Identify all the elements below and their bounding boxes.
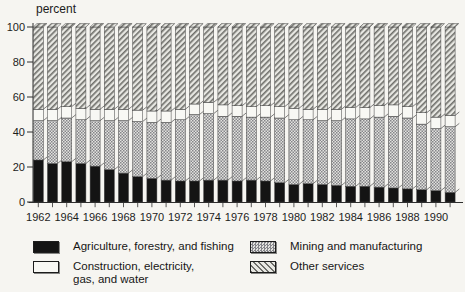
bar-segment-1975-checker: [218, 116, 228, 180]
segment-depth-line: [271, 102, 275, 105]
segment-depth-line: [313, 116, 317, 119]
segment-depth-line: [157, 108, 161, 111]
segment-depth-line: [370, 104, 374, 107]
segment-depth-line: [398, 185, 402, 188]
bar-segment-1982-diagonal: [317, 27, 327, 109]
bar-top-cap: [417, 24, 431, 27]
segment-depth-line: [413, 185, 417, 188]
bar-top-cap: [48, 24, 62, 27]
segment-depth-line: [313, 106, 317, 109]
x-tick-label: 1968: [111, 211, 135, 223]
segment-depth-line: [43, 106, 47, 109]
segment-depth-line: [228, 113, 232, 116]
bar-segment-1977-white: [246, 107, 256, 118]
bar-segment-1964-solid-black: [62, 162, 72, 202]
bar-top-cap: [360, 24, 374, 27]
bar-segment-1981-diagonal: [303, 27, 313, 109]
segment-depth-line: [214, 110, 218, 113]
bar-segment-1970-checker: [147, 122, 157, 178]
y-tick-label: 80: [13, 56, 25, 68]
bar-segment-1985-solid-black: [360, 186, 370, 202]
bar-segment-1983-diagonal: [332, 27, 342, 109]
bar-segment-1987-diagonal: [388, 27, 398, 105]
bar-top-cap: [246, 24, 260, 27]
bar-segment-1962-checker: [33, 121, 43, 160]
legend-label-construction-line2: gas, and water: [73, 273, 194, 286]
bar-segment-1984-solid-black: [346, 186, 356, 202]
bar-segment-1979-white: [275, 107, 285, 118]
segment-depth-line: [398, 113, 402, 116]
segment-depth-line: [129, 106, 133, 109]
segment-depth-line: [228, 177, 232, 180]
bar-segment-1966-checker: [90, 121, 100, 167]
segment-depth-line: [157, 175, 161, 178]
segment-depth-line: [242, 102, 246, 105]
bar-top-cap: [317, 24, 331, 27]
segment-depth-line: [100, 117, 104, 120]
bar-top-cap: [289, 24, 303, 27]
bar-top-cap: [232, 24, 246, 27]
bar-segment-1979-checker: [275, 118, 285, 183]
bar-segment-1976-solid-black: [232, 181, 242, 202]
bar-segment-1962-solid-black: [33, 160, 43, 202]
bar-segment-1973-white: [190, 104, 200, 115]
segment-depth-line: [129, 170, 133, 173]
x-tick-label: 1986: [367, 211, 391, 223]
segment-depth-line: [285, 115, 289, 118]
bar-segment-1987-white: [388, 105, 398, 116]
segment-depth-line: [214, 99, 218, 102]
bar-segment-1963-checker: [48, 121, 58, 164]
segment-depth-line: [200, 178, 204, 181]
bar-segment-1989-white: [417, 113, 427, 124]
bar-segment-1973-solid-black: [190, 181, 200, 202]
bar-segment-1981-checker: [303, 120, 313, 184]
bar-top-cap: [332, 24, 346, 27]
stacked-bar-chart: 0204060801001962196419661968197019721974…: [0, 0, 465, 232]
bar-top-cap: [161, 24, 175, 27]
segment-depth-line: [72, 103, 76, 106]
bar-segment-1974-solid-black: [204, 180, 214, 202]
bar-top-cap: [147, 24, 161, 27]
legend-label-other: Other services: [290, 260, 364, 273]
x-tick-label: 1970: [140, 211, 164, 223]
bar-segment-1975-diagonal: [218, 27, 228, 105]
legend-label-agriculture: Agriculture, forestry, and fishing: [73, 240, 234, 253]
segment-depth-line: [228, 101, 232, 104]
bar-segment-1967-diagonal: [104, 27, 114, 109]
segment-depth-line: [185, 178, 189, 181]
bar-segment-1988-diagonal: [403, 27, 413, 107]
bar-segment-1979-diagonal: [275, 27, 285, 107]
y-tick-label: 0: [19, 196, 25, 208]
bar-top-cap: [445, 24, 459, 27]
bar-top-cap: [33, 24, 47, 27]
bar-segment-1968-checker: [119, 121, 129, 174]
bar-segment-1968-white: [119, 109, 129, 120]
bar-segment-1965-white: [76, 108, 86, 119]
legend-label-construction-line1: Construction, electricity,: [73, 260, 194, 273]
x-tick-label: 1974: [196, 211, 220, 223]
bar-segment-1977-diagonal: [246, 27, 256, 107]
legend-item-other: Other services: [250, 260, 364, 273]
x-tick-label: 1982: [310, 211, 334, 223]
bar-segment-1967-checker: [104, 121, 114, 170]
segment-depth-line: [43, 117, 47, 120]
bar-segment-1989-diagonal: [417, 27, 427, 113]
x-tick-label: 1976: [225, 211, 249, 223]
segment-depth-line: [114, 166, 118, 169]
bar-segment-1963-white: [48, 109, 58, 120]
segment-depth-line: [214, 177, 218, 180]
bar-segment-1971-white: [161, 111, 171, 122]
x-tick-label: 1980: [282, 211, 306, 223]
bar-segment-1984-checker: [346, 119, 356, 186]
segment-depth-line: [427, 186, 431, 189]
segment-depth-line: [427, 109, 431, 112]
bar-segment-1977-checker: [246, 117, 256, 180]
segment-depth-line: [398, 101, 402, 104]
segment-depth-line: [114, 117, 118, 120]
bar-segment-1983-solid-black: [332, 185, 342, 202]
segment-depth-line: [441, 187, 445, 190]
segment-depth-line: [242, 113, 246, 116]
bar-top-cap: [303, 24, 317, 27]
bar-segment-1987-solid-black: [388, 188, 398, 202]
legend-label-construction: Construction, electricity, gas, and wate…: [73, 260, 194, 286]
